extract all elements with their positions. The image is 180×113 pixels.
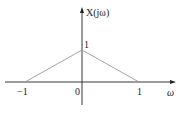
tick-label-0: 0 — [75, 87, 80, 97]
tick-label-neg1: −1 — [17, 87, 28, 97]
y-axis-arrow-icon — [80, 7, 84, 13]
peak-label: 1 — [84, 40, 89, 50]
x-axis-label: ω — [167, 88, 174, 98]
y-axis-label: X(jω) — [86, 8, 109, 18]
x-axis-arrow-icon — [170, 80, 176, 84]
tick-label-1: 1 — [137, 87, 142, 97]
